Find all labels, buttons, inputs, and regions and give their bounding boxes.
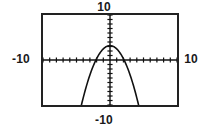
calculator-screen-frame — [41, 13, 179, 107]
plot-area — [43, 15, 177, 105]
x-max-label: 10 — [177, 53, 205, 65]
x-min-label: -10 — [4, 53, 38, 65]
y-max-label: 10 — [0, 1, 208, 13]
graphing-calculator-window: 10 -10 10 -10 — [0, 0, 208, 128]
y-min-label: -10 — [0, 114, 208, 126]
